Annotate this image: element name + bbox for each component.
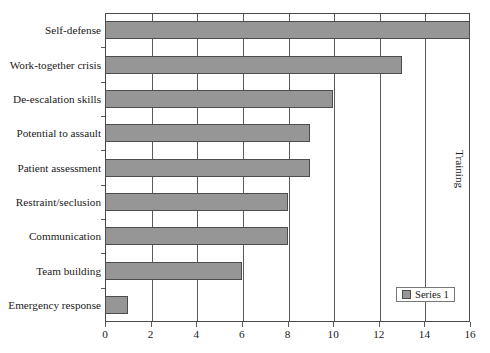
x-axis-tick-8 — [288, 322, 289, 327]
bar-work-together-crisis — [105, 56, 402, 74]
bar-row — [105, 21, 470, 39]
y-axis-tick — [101, 82, 105, 83]
bar-team-building — [105, 262, 242, 280]
x-axis-tick-12 — [379, 322, 380, 327]
legend: Series 1 — [396, 287, 455, 302]
x-axis-label-10: 10 — [318, 328, 348, 340]
bars-layer — [105, 13, 470, 322]
bar-patient-assessment — [105, 159, 310, 177]
x-axis-label-8: 8 — [273, 328, 303, 340]
x-axis-label-4: 4 — [181, 328, 211, 340]
category-axis-labels: Self-defenseWork-together crisisDe-escal… — [0, 13, 101, 322]
legend-swatch-series-1 — [402, 290, 411, 299]
y-axis-tick — [101, 116, 105, 117]
category-label-communication: Communication — [1, 230, 101, 242]
bar-de-escalation-skills — [105, 90, 333, 108]
category-label-restraint-seclusion: Restraint/seclusion — [1, 196, 101, 208]
bar-chart: Self-defenseWork-together crisisDe-escal… — [0, 0, 490, 353]
bar-row — [105, 159, 470, 177]
x-axis-label-2: 2 — [136, 328, 166, 340]
x-axis-label-12: 12 — [364, 328, 394, 340]
y-axis-tick — [101, 219, 105, 220]
y-axis-tick — [101, 185, 105, 186]
x-axis-tick-4 — [196, 322, 197, 327]
category-label-de-escalation-skills: De-escalation skills — [1, 93, 101, 105]
x-axis-label-0: 0 — [90, 328, 120, 340]
x-axis-tick-14 — [424, 322, 425, 327]
x-axis-label-16: 16 — [455, 328, 485, 340]
bar-potential-to-assault — [105, 124, 310, 142]
category-label-emergency-response: Emergency response — [1, 299, 101, 311]
bar-communication — [105, 227, 288, 245]
bar-row — [105, 90, 470, 108]
x-axis-tick-6 — [242, 322, 243, 327]
category-label-work-together-crisis: Work-together crisis — [1, 59, 101, 71]
x-axis-tick-16 — [470, 322, 471, 327]
y-axis-tick — [101, 253, 105, 254]
x-axis-tick-0 — [105, 322, 106, 327]
category-label-potential-to-assault: Potential to assault — [1, 127, 101, 139]
bar-row — [105, 124, 470, 142]
x-axis-label-14: 14 — [409, 328, 439, 340]
bar-row — [105, 193, 470, 211]
legend-label-series-1: Series 1 — [415, 289, 449, 300]
y-axis-tick — [101, 47, 105, 48]
bar-restraint-seclusion — [105, 193, 288, 211]
x-axis-tick-10 — [333, 322, 334, 327]
axis-title-training: Training — [454, 150, 466, 188]
bar-row — [105, 227, 470, 245]
x-axis-label-6: 6 — [227, 328, 257, 340]
x-axis-tick-2 — [151, 322, 152, 327]
category-label-team-building: Team building — [1, 265, 101, 277]
y-axis-tick — [101, 288, 105, 289]
bar-row — [105, 56, 470, 74]
bar-emergency-response — [105, 296, 128, 314]
bar-self-defense — [105, 21, 470, 39]
category-label-patient-assessment: Patient assessment — [1, 162, 101, 174]
category-label-self-defense: Self-defense — [1, 24, 101, 36]
bar-row — [105, 262, 470, 280]
y-axis-tick — [101, 150, 105, 151]
